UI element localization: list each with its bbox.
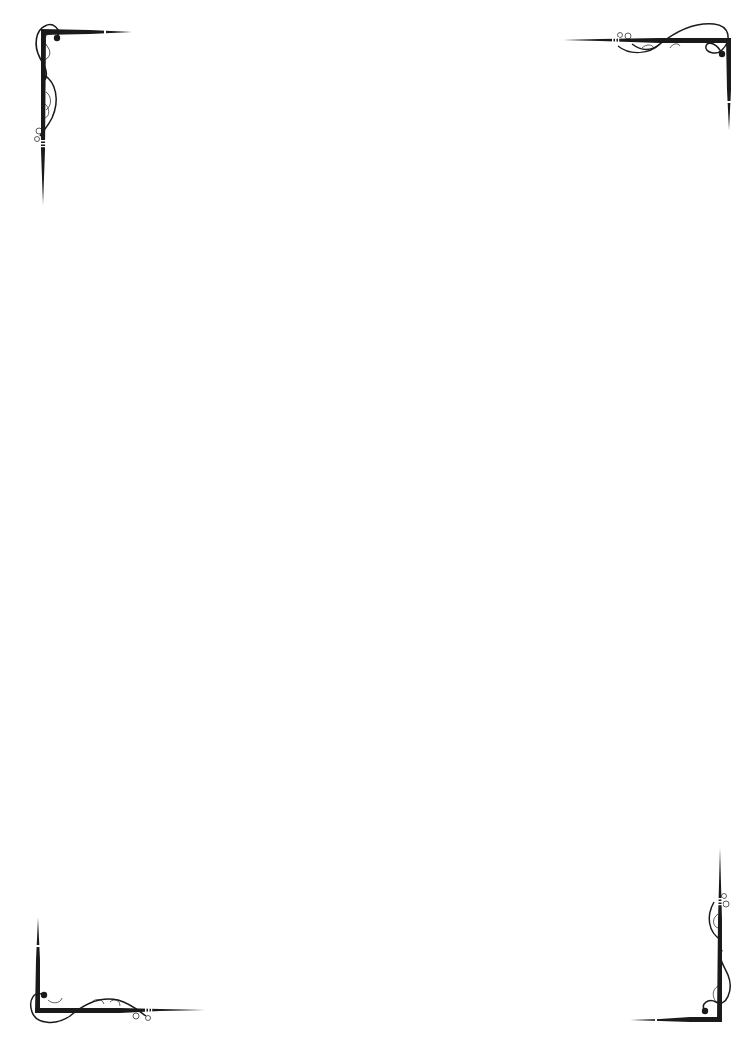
- page-content-area: [80, 80, 676, 974]
- blank-document-page: [0, 0, 756, 1054]
